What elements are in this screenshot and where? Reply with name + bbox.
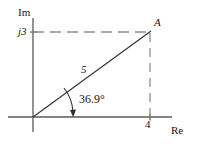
- imaginary-tick-label-j3: j3: [18, 26, 27, 37]
- complex-plane-diagram: Im j3 A 5 36.9° 4 Re: [0, 0, 197, 146]
- magnitude-label: 5: [81, 64, 87, 75]
- imaginary-axis-label: Im: [18, 7, 30, 18]
- real-axis-label: Re: [171, 125, 183, 136]
- angle-label: 36.9°: [79, 93, 105, 105]
- point-label-a: A: [154, 17, 161, 28]
- diagram-canvas: [0, 0, 197, 146]
- angle-arc-arrowhead: [70, 110, 76, 118]
- real-tick-label-4: 4: [145, 119, 151, 130]
